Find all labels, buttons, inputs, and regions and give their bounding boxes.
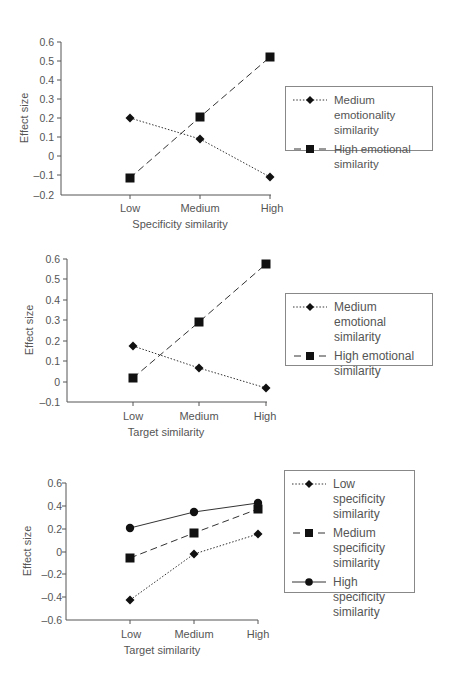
chart-2-y-label: Effect size	[23, 305, 35, 356]
dotted-diamond-icon	[292, 93, 328, 107]
dotted-diamond-icon	[292, 300, 328, 314]
svg-text:0: 0	[54, 376, 60, 388]
svg-text:0.2: 0.2	[39, 112, 54, 124]
chart-1-x-ticks: Low Medium High	[120, 202, 283, 214]
legend-item-low-specificity: Low specificitysimilarity	[291, 477, 408, 522]
svg-text:0.5: 0.5	[39, 55, 54, 67]
chart-3-y-ticks: 0.6 0.4 0.2 0 –0.2 –0.4 –0.6	[42, 477, 63, 626]
svg-text:Low: Low	[123, 410, 143, 422]
chart-3-axes	[62, 483, 258, 624]
svg-text:0.3: 0.3	[45, 314, 60, 326]
svg-text:0.4: 0.4	[45, 294, 60, 306]
chart-1-y-axis	[57, 42, 271, 199]
svg-text:0: 0	[56, 546, 62, 558]
svg-text:Medium: Medium	[174, 628, 213, 640]
svg-text:0.1: 0.1	[45, 355, 60, 367]
chart-2: 0.6 0.5 0.4 0.3 0.2 0.1 0 –0.1 Low Mediu…	[23, 253, 276, 438]
chart-2-legend: Medium emotionalsimilarity High emotiona…	[285, 293, 433, 366]
chart-1: 0.6 0.5 0.4 0.3 0.2 0.1 0 –0.1 –0.2 Low …	[18, 36, 283, 230]
chart-3-x-ticks: Low Medium High	[121, 628, 269, 640]
svg-text:High: High	[254, 410, 277, 422]
chart-3-x-label: Target similarity	[124, 644, 201, 656]
svg-text:Low: Low	[121, 628, 141, 640]
svg-text:Medium: Medium	[179, 410, 218, 422]
legend-item-medium-specificity: Mediumspecificitysimilarity	[291, 526, 408, 571]
chart-2-x-ticks: Low Medium High	[123, 410, 276, 422]
legend-text: High emotional	[334, 143, 411, 155]
legend-text: similarity	[334, 158, 379, 170]
chart-3-legend: Low specificitysimilarity Mediumspecific…	[284, 470, 415, 593]
svg-text:Medium: Medium	[180, 202, 219, 214]
svg-text:0.3: 0.3	[39, 93, 54, 105]
dashed-square-icon	[292, 142, 328, 156]
legend-text: similarity	[333, 605, 380, 619]
legend-text: Medium emotionality	[334, 94, 395, 121]
svg-text:0.1: 0.1	[39, 131, 54, 143]
chart-1-y-ticks: 0.6 0.5 0.4 0.3 0.2 0.1 0 –0.1 –0.2	[34, 36, 55, 201]
svg-text:–0.1: –0.1	[40, 396, 61, 408]
chart-1-x-label: Specificity similarity	[132, 218, 228, 230]
svg-text:0.6: 0.6	[45, 253, 60, 265]
svg-text:0.6: 0.6	[47, 477, 62, 489]
dashed-square-icon	[291, 526, 327, 540]
legend-text: Medium emotional	[334, 300, 386, 329]
dotted-diamond-icon	[291, 477, 327, 491]
chart-3: 0.6 0.4 0.2 0 –0.2 –0.4 –0.6 Low Medium …	[21, 477, 269, 656]
svg-text:0.6: 0.6	[39, 36, 54, 48]
svg-text:0.2: 0.2	[45, 335, 60, 347]
legend-text: Medium	[333, 526, 376, 540]
svg-text:Low: Low	[120, 202, 140, 214]
svg-text:0: 0	[48, 150, 54, 162]
solid-circle-icon	[291, 575, 327, 589]
chart-2-x-label: Target similarity	[128, 426, 205, 438]
legend-text: similarity	[334, 364, 381, 378]
svg-text:0.2: 0.2	[47, 523, 62, 535]
svg-text:0.5: 0.5	[45, 273, 60, 285]
chart-1-y-label: Effect size	[18, 93, 30, 144]
legend-text: specificity	[333, 541, 385, 555]
svg-text:High: High	[247, 628, 270, 640]
legend-item-high-emotional: High emotionalsimilarity	[292, 349, 426, 379]
svg-text:High: High	[261, 202, 284, 214]
legend-item-high-emotional: High emotionalsimilarity	[292, 142, 426, 172]
chart-3-y-label: Effect size	[21, 526, 33, 577]
dashed-square-icon	[292, 349, 328, 363]
legend-text: similarity	[334, 124, 379, 136]
svg-text:0.4: 0.4	[47, 500, 62, 512]
legend-text: High specificity	[333, 575, 385, 604]
legend-text: similarity	[334, 330, 381, 344]
svg-text:–0.6: –0.6	[42, 614, 63, 626]
legend-item-medium-emotionality: Medium emotionalitysimilarity	[292, 93, 426, 138]
chart-1-series-high-emotional	[126, 53, 275, 183]
svg-text:–0.1: –0.1	[34, 169, 55, 181]
chart-2-series-medium-emotional	[129, 342, 271, 393]
chart-2-axes	[63, 259, 267, 406]
svg-text:–0.4: –0.4	[42, 591, 63, 603]
svg-text:–0.2: –0.2	[34, 189, 55, 201]
chart-1-series-medium-emotionality	[126, 114, 275, 182]
chart-3-series-high-specificity	[126, 499, 262, 532]
legend-text: similarity	[333, 556, 380, 570]
svg-text:–0.2: –0.2	[42, 568, 63, 580]
legend-text: similarity	[333, 507, 380, 521]
legend-text: High emotional	[334, 349, 414, 363]
svg-text:0.4: 0.4	[39, 74, 54, 86]
chart-1-legend: Medium emotionalitysimilarity High emoti…	[285, 86, 433, 151]
legend-item-medium-emotional: Medium emotionalsimilarity	[292, 300, 426, 345]
legend-item-high-specificity: High specificitysimilarity	[291, 575, 408, 620]
chart-2-y-ticks: 0.6 0.5 0.4 0.3 0.2 0.1 0 –0.1	[40, 253, 61, 408]
chart-3-series-low-specificity	[126, 530, 263, 605]
legend-text: Low specificity	[333, 477, 385, 506]
